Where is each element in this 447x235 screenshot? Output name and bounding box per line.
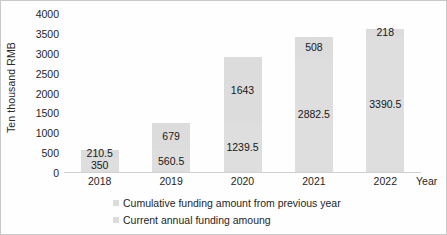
bar-segment-cumulative[interactable]: 560.5 — [152, 150, 190, 172]
y-axis-tick: 3500 — [36, 28, 59, 40]
plot-area: 210.5350679560.516431239.55082882.521833… — [64, 13, 421, 173]
legend-item-current-annual: Current annual funding amoung — [113, 212, 341, 227]
bar-group[interactable]: 679560.5 — [140, 123, 202, 172]
chart-legend: Cumulative funding amount from previous … — [113, 195, 341, 227]
legend-swatch-icon — [113, 200, 119, 206]
x-axis-tick: 2019 — [140, 175, 202, 187]
bar-segment-current-annual[interactable]: 210.5 — [81, 150, 119, 158]
y-axis-tick: 2000 — [36, 88, 59, 100]
x-axis-line — [64, 172, 421, 173]
bar-segment-cumulative[interactable]: 3390.5 — [366, 37, 404, 172]
x-axis-tick: 2022 — [354, 175, 416, 187]
bar-value-label: 210.5 — [87, 148, 113, 159]
legend-item-label: Current annual funding amoung — [123, 214, 271, 226]
y-axis-tick: 1000 — [36, 127, 59, 139]
bar-segment-current-annual[interactable]: 218 — [366, 29, 404, 38]
bar-segment-cumulative[interactable]: 1239.5 — [224, 123, 262, 172]
x-axis-tick: 2020 — [212, 175, 274, 187]
y-axis-tick: 2500 — [36, 68, 59, 80]
x-axis-title: Year — [416, 175, 437, 187]
y-axis-tick: 500 — [41, 147, 59, 159]
y-axis-title: Ten thousand RMB — [3, 13, 19, 163]
bar-value-label: 508 — [305, 42, 323, 53]
y-axis-tick: 4000 — [36, 8, 59, 20]
bar-value-label: 2882.5 — [298, 109, 330, 120]
bar-value-label: 1643 — [231, 85, 254, 96]
bar-value-label: 679 — [162, 131, 180, 142]
x-axis-tick: 2018 — [69, 175, 131, 187]
y-axis-tick: 3000 — [36, 48, 59, 60]
legend-swatch-icon — [113, 217, 119, 223]
y-axis-tick: 0 — [53, 167, 59, 179]
bar-value-label: 350 — [91, 160, 109, 171]
bar-value-label: 560.5 — [158, 156, 184, 167]
bar-segment-cumulative[interactable]: 350 — [81, 158, 119, 172]
bar-segment-cumulative[interactable]: 2882.5 — [295, 57, 333, 172]
bar-group[interactable]: 16431239.5 — [212, 57, 274, 172]
bar-value-label: 218 — [377, 27, 395, 38]
chart-container: Ten thousand RMB 05001000150020002500300… — [0, 0, 447, 235]
bar-segment-current-annual[interactable]: 1643 — [224, 57, 262, 122]
legend-item-cumulative: Cumulative funding amount from previous … — [113, 195, 341, 210]
bar-segment-current-annual[interactable]: 679 — [152, 123, 190, 150]
bar-segment-current-annual[interactable]: 508 — [295, 37, 333, 57]
x-axis-tick: 2021 — [283, 175, 345, 187]
x-axis-tick-labels: 20182019202020212022 — [64, 175, 421, 191]
y-axis-tick-labels: 05001000150020002500300035004000 — [19, 13, 61, 173]
bar-group[interactable]: 210.5350 — [69, 150, 131, 172]
bar-group[interactable]: 5082882.5 — [283, 37, 345, 172]
bar-group[interactable]: 2183390.5 — [354, 29, 416, 172]
bar-value-label: 1239.5 — [226, 142, 258, 153]
legend-item-label: Cumulative funding amount from previous … — [123, 197, 341, 209]
y-axis-tick: 1500 — [36, 107, 59, 119]
bar-value-label: 3390.5 — [369, 99, 401, 110]
